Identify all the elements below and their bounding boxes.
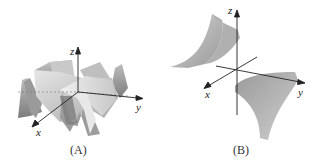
wavy-surface-plot: z y x [0, 0, 160, 164]
y-axis-label-b: y [297, 86, 303, 98]
y-axis-label-a: y [135, 101, 141, 113]
figure-a: z y x (A) [0, 0, 160, 164]
x-axis-label-a: x [35, 126, 41, 138]
caption-a: (A) [70, 143, 87, 158]
z-axis-label-b: z [227, 4, 233, 16]
figure-b: z y x (B) [150, 0, 311, 164]
saddle-sheets-plot: z y x [150, 0, 311, 164]
caption-b: (B) [233, 143, 249, 158]
x-axis-label-b: x [204, 88, 210, 100]
z-axis-label-a: z [69, 45, 75, 57]
